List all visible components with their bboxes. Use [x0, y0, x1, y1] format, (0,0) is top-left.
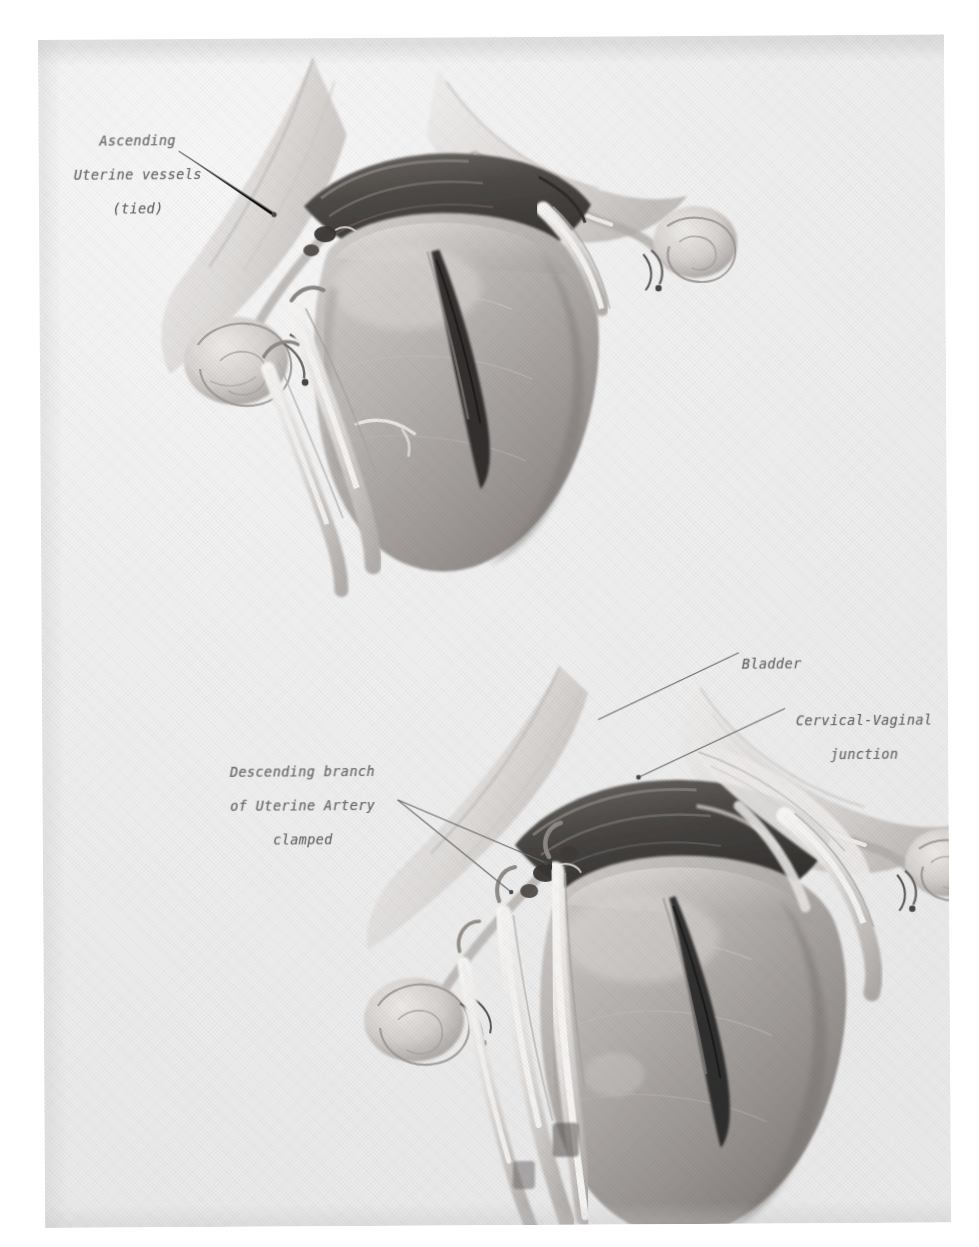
figure-upper-uterus [138, 35, 782, 619]
label-descending-uterine-artery-clamped: Descending branch of Uterine Artery clam… [210, 746, 395, 866]
label-line-3: (tied) [63, 200, 213, 218]
label-bladder: Bladder [742, 638, 882, 690]
scanned-plate: Ascending Uterine vessels (tied) [38, 34, 951, 1228]
label-cervical-vaginal-junction: Cervical-Vaginal junction [784, 694, 945, 780]
label-descending-line-3: clamped [211, 831, 395, 849]
clamp-instruments-lower [458, 823, 585, 1228]
upper-anatomy-drawing [138, 35, 782, 619]
label-descending-line-2: of Uterine Artery [211, 797, 395, 815]
uterine-corpus [313, 212, 600, 572]
label-bladder-text: Bladder [742, 655, 882, 673]
label-descending-line-1: Descending branch [210, 763, 394, 781]
label-ascending-uterine-vessels-tied: Ascending Uterine vessels (tied) [62, 115, 213, 235]
label-cvj-line-1: Cervical-Vaginal [784, 711, 944, 729]
label-cvj-line-2: junction [784, 745, 944, 763]
page-canvas: Ascending Uterine vessels (tied) [0, 0, 979, 1247]
label-line-2: Uterine vessels [63, 166, 213, 184]
label-line-1: Ascending [63, 132, 213, 150]
